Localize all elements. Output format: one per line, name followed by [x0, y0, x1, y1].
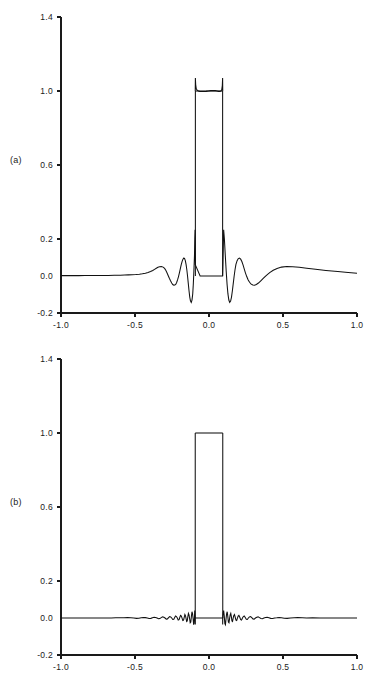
- y-tick-label: 0.0: [40, 271, 53, 281]
- data-curve-reconstruction-suppressed-ringing: [61, 611, 357, 625]
- y-tick-label: 0.0: [40, 613, 53, 623]
- y-tick-label: 1.0: [40, 86, 53, 96]
- x-tick-label: -0.5: [127, 320, 143, 330]
- y-tick-label: 1.0: [40, 428, 53, 438]
- y-tick-label: 0.6: [40, 160, 53, 170]
- y-tick-label: 0.6: [40, 502, 53, 512]
- plot-b-svg: -0.20.00.20.61.01.4-1.0-0.50.00.51.0: [0, 342, 373, 684]
- plot-a-svg: -0.20.00.20.61.01.4-1.0-0.50.00.51.0: [0, 0, 373, 342]
- x-tick-label: 0.5: [277, 320, 290, 330]
- x-tick-label: 0.5: [277, 662, 290, 672]
- x-tick-label: -1.0: [53, 662, 69, 672]
- x-tick-label: 0.0: [203, 320, 216, 330]
- data-curve-reconstruction-with-ringing: [61, 230, 357, 303]
- x-tick-label: 1.0: [351, 662, 364, 672]
- data-curve-pulse-top-overshoot: [195, 78, 223, 92]
- plot-panel-b: (b) -0.20.00.20.61.01.4-1.0-0.50.00.51.0: [0, 342, 373, 684]
- plot-panel-a: (a) -0.20.00.20.61.01.4-1.0-0.50.00.51.0: [0, 0, 373, 342]
- x-tick-label: 1.0: [351, 320, 364, 330]
- y-tick-label: 1.4: [40, 12, 53, 22]
- x-tick-label: 0.0: [203, 662, 216, 672]
- y-tick-label: -0.2: [37, 308, 53, 318]
- figure-container: (a) -0.20.00.20.61.01.4-1.0-0.50.00.51.0…: [0, 0, 373, 684]
- x-tick-label: -0.5: [127, 662, 143, 672]
- y-tick-label: 1.4: [40, 354, 53, 364]
- y-tick-label: 0.2: [40, 234, 53, 244]
- y-tick-label: 0.2: [40, 576, 53, 586]
- y-tick-label: -0.2: [37, 650, 53, 660]
- x-tick-label: -1.0: [53, 320, 69, 330]
